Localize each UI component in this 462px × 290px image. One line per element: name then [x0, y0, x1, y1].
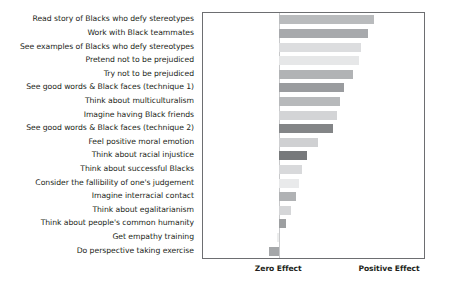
category-label: Think about multiculturalism — [0, 96, 194, 105]
category-label: Read story of Blacks who defy stereotype… — [0, 14, 194, 23]
category-label: Pretend not to be prejudiced — [0, 55, 194, 64]
bar — [279, 15, 374, 24]
bar — [279, 70, 353, 79]
positive-effect-axis-label: Positive Effect — [358, 264, 419, 273]
bar — [279, 165, 302, 174]
bar — [279, 83, 344, 92]
bar — [279, 111, 336, 120]
category-label: Do perspective taking exercise — [0, 246, 194, 255]
category-label: Think about people's common humanity — [0, 218, 194, 227]
horizontal-bar-chart: Read story of Blacks who defy stereotype… — [0, 0, 462, 290]
bar — [279, 97, 340, 106]
category-label: Work with Black teammates — [0, 28, 194, 37]
category-label: Imagine having Black friends — [0, 110, 194, 119]
category-label: See good words & Black faces (technique … — [0, 82, 194, 91]
category-label-column: Read story of Blacks who defy stereotype… — [0, 12, 198, 259]
bar — [279, 219, 286, 228]
plot-area — [202, 12, 425, 259]
bar — [269, 247, 279, 256]
category-label: See good words & Black faces (technique … — [0, 123, 194, 132]
category-label: Try not to be prejudiced — [0, 69, 194, 78]
category-label: Get empathy training — [0, 232, 194, 241]
category-label: Think about racial injustice — [0, 150, 194, 159]
bar — [279, 138, 318, 147]
bar — [279, 29, 367, 38]
bar — [279, 124, 333, 133]
category-label: Feel positive moral emotion — [0, 137, 194, 146]
zero-effect-axis-label: Zero Effect — [255, 264, 302, 273]
bar — [279, 56, 359, 65]
bar — [279, 192, 296, 201]
bar — [279, 206, 291, 215]
category-label: Imagine interracial contact — [0, 191, 194, 200]
bar — [279, 151, 307, 160]
category-label: See examples of Blacks who defy stereoty… — [0, 42, 194, 51]
category-label: Consider the fallibility of one's judgem… — [0, 178, 194, 187]
bar — [279, 179, 299, 188]
bar — [279, 43, 361, 52]
category-label: Think about egalitarianism — [0, 205, 194, 214]
bar — [277, 233, 279, 242]
category-label: Think about successful Blacks — [0, 164, 194, 173]
